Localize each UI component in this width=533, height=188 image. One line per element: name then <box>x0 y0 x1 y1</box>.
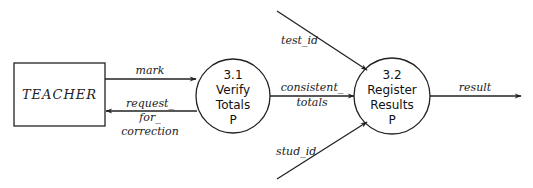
process-register-results: 3.2 Register Results P <box>354 58 430 134</box>
flow-consistent-totals: consistent_ totals <box>270 81 354 109</box>
process-verify-totals: 3.1 Verify Totals P <box>196 59 270 133</box>
flow-label: stud_id <box>276 145 316 158</box>
flow-label: mark <box>136 64 165 77</box>
flow-label: result <box>459 81 492 94</box>
entity-teacher: TEACHER <box>14 63 105 126</box>
process-marker: P <box>388 113 395 127</box>
flow-label-line1: request_ <box>126 97 174 110</box>
flow-request-for-correction: request_ for_ correction <box>106 97 197 138</box>
process-name-line1: Register <box>367 83 416 97</box>
process-name-line2: Results <box>370 98 413 112</box>
process-name-line1: Verify <box>216 83 250 97</box>
flow-label-line2: for_ <box>138 111 161 124</box>
process-number: 3.2 <box>382 68 401 82</box>
flow-mark: mark <box>105 64 196 79</box>
flow-label-line1: consistent_ <box>281 81 344 94</box>
flow-result: result <box>430 81 521 96</box>
flow-label: test_id <box>281 34 318 47</box>
entity-label: TEACHER <box>22 87 97 102</box>
flow-label-line3: correction <box>121 125 179 138</box>
process-name-line2: Totals <box>215 98 250 112</box>
flow-label-line2: totals <box>296 96 328 109</box>
flow-test-id: test_id <box>277 11 367 70</box>
data-flow-diagram: TEACHER mark request_ for_ correction 3.… <box>0 0 533 188</box>
process-number: 3.1 <box>223 68 242 82</box>
process-marker: P <box>229 113 236 127</box>
flow-stud-id: stud_id <box>276 122 367 179</box>
